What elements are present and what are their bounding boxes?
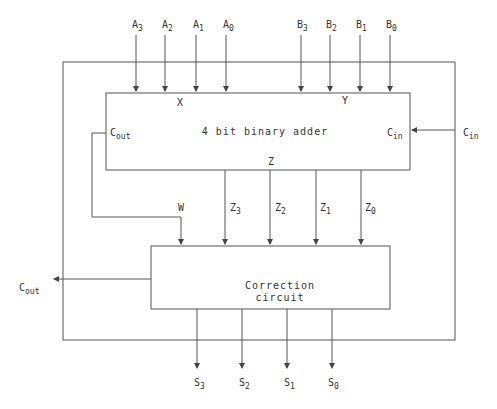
output-s0-label: S0 <box>328 378 339 392</box>
bcd-adder-diagram <box>0 0 497 409</box>
input-b2-label: B2 <box>326 20 337 34</box>
z3-label: Z3 <box>230 203 241 217</box>
cin-external-label: Cin <box>463 128 479 142</box>
input-b1-label: B1 <box>356 20 367 34</box>
port-x-label: X <box>177 98 183 108</box>
port-y-label: Y <box>342 96 348 106</box>
cout-external-label: Cout <box>19 283 39 297</box>
input-a0-label: A0 <box>223 20 234 34</box>
correction-line2: circuit <box>230 292 330 304</box>
input-a3-label: A3 <box>132 20 143 34</box>
output-s3-label: S3 <box>194 378 205 392</box>
correction-line1: Correction <box>230 280 330 292</box>
w-label: W <box>178 203 184 213</box>
input-a1-label: A1 <box>193 20 204 34</box>
adder-title: 4 bit binary adder <box>190 126 340 137</box>
z1-label: Z1 <box>320 203 331 217</box>
port-z-label: Z <box>268 157 274 167</box>
adder-cout-label: Cout <box>110 128 130 142</box>
input-a2-label: A2 <box>162 20 173 34</box>
z0-label: Z0 <box>365 203 376 217</box>
input-b0-label: B0 <box>386 20 397 34</box>
output-s2-label: S2 <box>239 378 250 392</box>
z2-label: Z2 <box>275 203 286 217</box>
output-s1-label: S1 <box>284 378 295 392</box>
adder-cin-label: Cin <box>387 128 403 142</box>
correction-title: Correction circuit <box>230 280 330 304</box>
input-b3-label: B3 <box>297 20 308 34</box>
